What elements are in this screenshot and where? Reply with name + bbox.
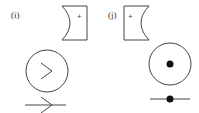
plus-sign: + [128, 12, 133, 21]
panel-i: + [25, 6, 87, 113]
line-dot-icon [167, 96, 174, 103]
center-dot-icon [167, 61, 174, 68]
circle-arrow-symbol [26, 50, 68, 92]
concave-left-shape [62, 6, 87, 40]
chevron-right-icon [41, 63, 52, 79]
plus-sign: + [77, 12, 82, 21]
diagram-canvas: + + [0, 0, 199, 113]
panel-j: + [124, 6, 191, 103]
